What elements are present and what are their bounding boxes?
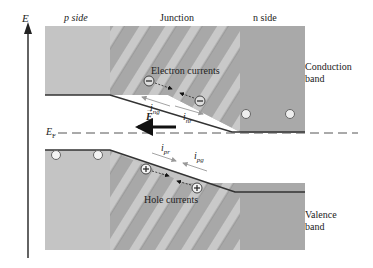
i-ng-label: ing [150,102,160,116]
conduction-band-label: Conduction band [305,61,352,84]
conduction-band-region [45,26,305,136]
i-pg-label: ipg [194,150,204,164]
pn-junction-band-diagram: E p side Junction n side Conduction band… [0,0,373,268]
energy-axis [24,22,32,258]
hole-currents-label: Hole currents [144,194,198,206]
i-pr-label: ipr [161,142,170,156]
energy-axis-label: E [22,12,29,25]
junction-label: Junction [160,12,194,24]
p-side-label: p side [64,12,88,24]
fermi-level-label: EF [46,126,56,140]
n-side-label: n side [253,12,277,24]
valence-band-label: Valence band [305,209,337,232]
electron-currents-label: Electron currents [151,65,220,77]
i-nr-label: inr [183,111,192,125]
